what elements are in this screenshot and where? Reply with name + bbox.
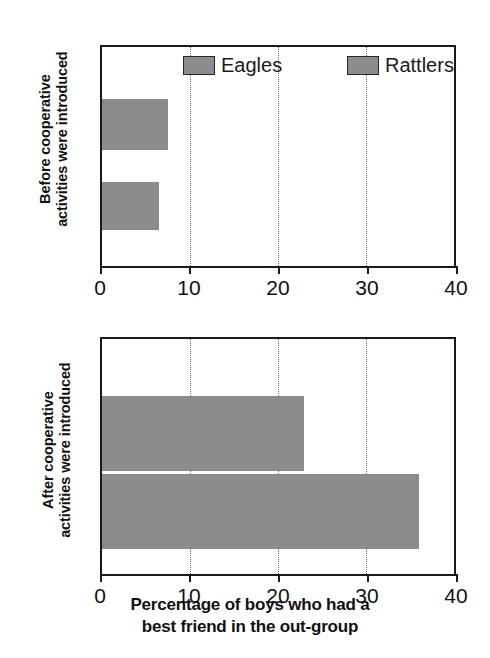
x-axis-before: 0 10 20 30 40	[100, 266, 456, 302]
gridline-20	[278, 47, 279, 266]
bar-before-eagles	[102, 99, 168, 150]
xtick-0	[100, 266, 102, 274]
xticklabel-30: 30	[355, 276, 378, 300]
gridline-10	[190, 47, 191, 266]
xtick-30	[367, 266, 369, 274]
xtick-20	[278, 266, 280, 274]
bar-chart-figure: Before cooperative activities were intro…	[0, 0, 490, 658]
xticklabel-0: 0	[94, 276, 106, 300]
xticklabel-10: 10	[177, 276, 200, 300]
plot-area-before: Eagles Rattlers	[100, 45, 456, 268]
bar-after-rattlers	[102, 474, 419, 549]
xtick-10	[189, 266, 191, 274]
xtick-20	[278, 574, 280, 582]
x-axis-title-line2: best friend in the out-group	[40, 616, 460, 638]
legend-item-rattlers[interactable]: Rattlers	[347, 55, 454, 75]
y-axis-title-after-line2: activities were introduced	[58, 333, 75, 568]
bar-after-eagles	[102, 396, 304, 471]
legend-item-eagles[interactable]: Eagles	[183, 55, 282, 75]
plot-inner-after	[102, 339, 454, 574]
legend-label-eagles: Eagles	[221, 55, 282, 75]
x-axis-title: Percentage of boys who had a best friend…	[40, 594, 460, 638]
panel-before: Before cooperative activities were intro…	[0, 0, 490, 300]
y-axis-title-after-line1: After cooperative	[40, 333, 57, 568]
xtick-40	[456, 574, 458, 582]
y-axis-title-before-line2: activities were introduced	[55, 22, 72, 257]
x-axis-title-line1: Percentage of boys who had a	[40, 594, 460, 616]
y-axis-title-before: Before cooperative activities were intro…	[37, 22, 71, 257]
legend-swatch-rattlers	[347, 56, 379, 75]
legend-label-rattlers: Rattlers	[385, 55, 454, 75]
legend-swatch-eagles	[183, 56, 215, 75]
bar-before-rattlers	[102, 182, 159, 230]
xticklabel-20: 20	[266, 276, 289, 300]
xticklabel-40: 40	[444, 276, 467, 300]
xtick-10	[189, 574, 191, 582]
xtick-0	[100, 574, 102, 582]
plot-inner-before: Eagles Rattlers	[102, 47, 454, 266]
y-axis-title-before-line1: Before cooperative	[37, 22, 54, 257]
gridline-30	[366, 47, 367, 266]
xtick-30	[367, 574, 369, 582]
plot-area-after	[100, 337, 456, 576]
xtick-40	[456, 266, 458, 274]
y-axis-title-after: After cooperative activities were introd…	[40, 333, 74, 568]
